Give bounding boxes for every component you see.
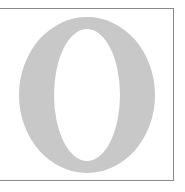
bottom-rule <box>0 180 174 181</box>
right-rule <box>173 8 174 181</box>
letter-o-character: O <box>19 17 20 18</box>
capital-letter-o-glyph: O <box>19 17 155 173</box>
glyph-area: O <box>0 9 173 180</box>
letter-o-counter <box>54 29 120 161</box>
glyph-panel: O <box>0 0 185 192</box>
